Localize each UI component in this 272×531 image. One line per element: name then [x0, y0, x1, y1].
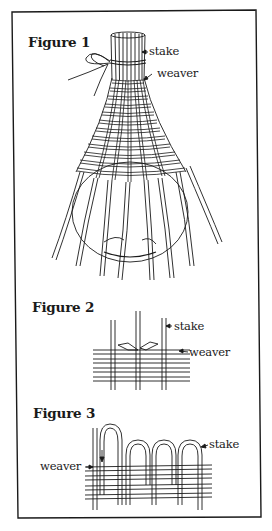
figure-1-title: Figure 1	[28, 34, 90, 50]
stake-bundle	[110, 32, 146, 80]
figure-3-drawing	[85, 424, 212, 510]
figure-1-weaver-label: weaver	[157, 66, 198, 80]
diagram-frame: Figure 1 Figure 2 Figure 3 stake weaver …	[0, 0, 272, 531]
figure-2-weaver-label: weaver	[189, 345, 230, 359]
figure-3-stake-label: stake	[209, 437, 239, 451]
flaring-stakes	[52, 166, 222, 280]
figure-2-title: Figure 2	[32, 299, 94, 315]
tie-string	[68, 54, 110, 96]
figure-3-weaver-label: weaver	[40, 459, 81, 473]
figure-3-title: Figure 3	[33, 405, 95, 421]
figure-2-stake-label: stake	[174, 319, 204, 333]
figure-1-stake-label: stake	[149, 44, 179, 58]
illustration-canvas	[0, 0, 272, 531]
